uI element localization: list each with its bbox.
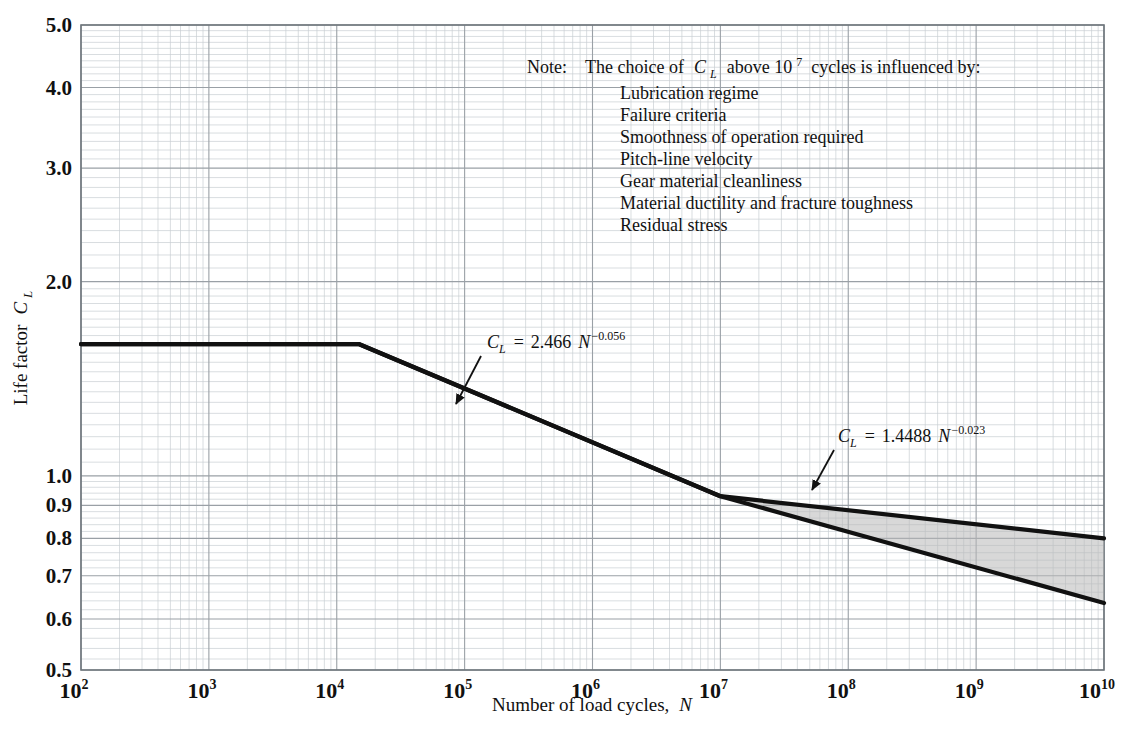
- note-item: Material ductility and fracture toughnes…: [620, 193, 913, 213]
- y-tick-label: 5.0: [46, 13, 72, 37]
- note-item: Smoothness of operation required: [620, 127, 863, 147]
- note-lead-part2: above 10: [727, 57, 792, 77]
- note-item: Failure criteria: [620, 105, 726, 125]
- life-factor-chart: 1021031041051061071081091010 5.04.03.02.…: [0, 0, 1130, 730]
- y-tick-label: 4.0: [46, 76, 72, 100]
- y-tick-label: 1.0: [46, 464, 72, 488]
- note-lead-line: Note: The choice of C L above 10 7 cycle…: [527, 52, 981, 81]
- y-axis-title-main: Life factor: [10, 324, 31, 405]
- svg-text:Number of load cycles, N: Number of load cycles, N: [492, 694, 693, 715]
- x-axis-title-symbol: N: [678, 694, 693, 715]
- note-item: Lubrication regime: [620, 83, 758, 103]
- note-label: Note:: [527, 57, 567, 77]
- x-axis-title: Number of load cycles, N: [492, 694, 693, 715]
- note-lead-symbol: C: [694, 57, 707, 77]
- note-item: Gear material cleanliness: [620, 171, 802, 191]
- y-axis-title-subscript: L: [20, 291, 35, 299]
- y-tick-label: 0.6: [46, 607, 72, 631]
- note-lead-subscript: L: [709, 67, 717, 81]
- note-lead-part3: cycles is influenced by:: [811, 57, 980, 77]
- y-tick-label: 2.0: [46, 270, 72, 294]
- y-tick-label: 0.8: [46, 526, 72, 550]
- x-axis-title-main: Number of load cycles,: [492, 694, 669, 715]
- y-axis-title-symbol: C: [10, 302, 31, 315]
- note-lead-part1: The choice of: [585, 57, 684, 77]
- y-tick-label: 0.5: [46, 658, 72, 682]
- note-item: Pitch-line velocity: [620, 149, 752, 169]
- y-tick-label: 3.0: [46, 156, 72, 180]
- note-lead-exponent: 7: [796, 55, 802, 69]
- note-item: Residual stress: [620, 215, 728, 235]
- y-tick-label: 0.9: [46, 493, 72, 517]
- y-tick-label: 0.7: [46, 564, 72, 588]
